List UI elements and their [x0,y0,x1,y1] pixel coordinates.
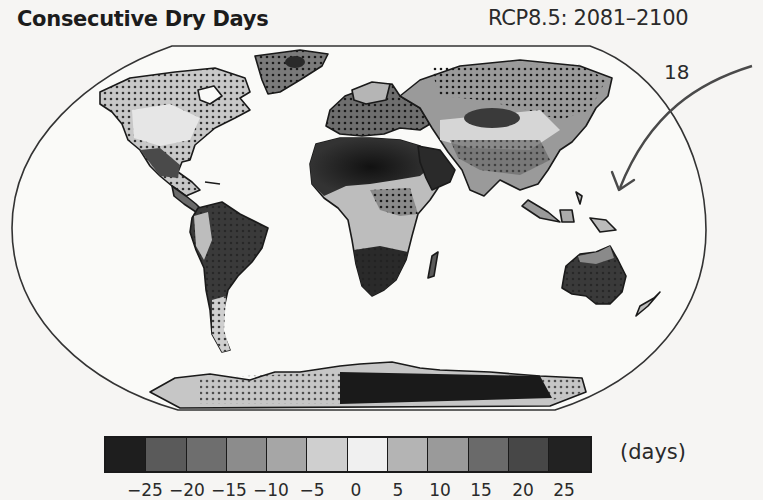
colorbar-tick: −15 [211,480,247,500]
colorbar-bin [267,438,307,471]
colorbar-bin [146,438,186,471]
colorbar-bin [509,438,549,471]
colorbar-bin [106,438,146,471]
colorbar-bin [549,438,589,471]
colorbar-tick: 10 [429,480,451,500]
colorbar-bin [388,438,428,471]
colorbar [104,436,592,473]
colorbar-tick: −25 [127,480,163,500]
colorbar-tick: 20 [512,480,534,500]
colorbar-bin [348,438,388,471]
colorbar-bin [428,438,468,471]
colorbar-tick: −5 [299,480,324,500]
colorbar-bin [227,438,267,471]
world-map [0,0,763,500]
colorbar-tick: 15 [470,480,492,500]
colorbar-tick: 5 [393,480,404,500]
colorbar-tick: −20 [169,480,205,500]
colorbar-tick: 0 [351,480,362,500]
colorbar-tick: −10 [253,480,289,500]
colorbar-bin [307,438,347,471]
colorbar-units: (days) [620,440,686,464]
colorbar-ticks: −25 −20 −15 −10 −5 0 5 10 15 20 25 [0,480,763,500]
colorbar-bin [187,438,227,471]
colorbar-bin [469,438,509,471]
colorbar-tick: 25 [553,480,575,500]
